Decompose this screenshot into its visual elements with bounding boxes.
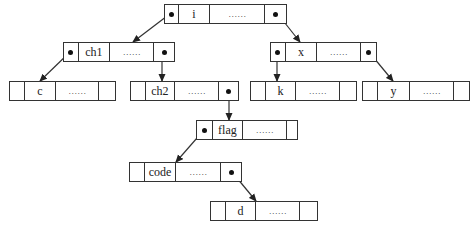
pointer-dot-icon xyxy=(202,128,207,133)
node-data-cell: …… xyxy=(110,43,154,61)
left-pointer-cell xyxy=(165,5,179,23)
node-key-label: c xyxy=(37,84,42,99)
node-key-label: flag xyxy=(218,123,237,138)
left-pointer-cell xyxy=(131,82,146,100)
node-key-label: d xyxy=(237,204,243,219)
node-key-cell: ch1 xyxy=(79,43,110,61)
node-key-cell: x xyxy=(286,43,317,61)
pointer-dot-icon xyxy=(273,12,278,17)
node-data-ellipsis: …… xyxy=(269,206,287,216)
node-key-label: code xyxy=(149,165,172,180)
right-pointer-cell xyxy=(300,202,317,220)
left-pointer-cell xyxy=(363,82,378,100)
tree-node-i: i…… xyxy=(164,4,287,24)
tree-node-code: code…… xyxy=(129,162,242,182)
right-pointer-cell xyxy=(219,82,238,100)
tree-node-flag: flag…… xyxy=(196,120,298,140)
left-pointer-cell xyxy=(271,43,286,61)
pointer-dot-icon xyxy=(162,50,167,55)
node-key-label: ch1 xyxy=(85,45,102,60)
node-data-cell: …… xyxy=(176,163,221,181)
node-key-label: k xyxy=(277,84,283,99)
tree-node-k: k…… xyxy=(250,81,357,101)
node-data-ellipsis: …… xyxy=(123,47,141,57)
node-data-ellipsis: …… xyxy=(423,86,441,96)
right-pointer-cell xyxy=(454,82,469,100)
node-key-label: y xyxy=(390,84,396,99)
node-data-ellipsis: …… xyxy=(68,86,86,96)
node-data-ellipsis: …… xyxy=(228,9,246,19)
left-pointer-cell xyxy=(10,82,25,100)
node-data-cell: …… xyxy=(175,82,219,100)
node-key-cell: ch2 xyxy=(146,82,175,100)
tree-node-ch2: ch2…… xyxy=(130,81,239,101)
right-pointer-cell xyxy=(221,163,241,181)
node-data-ellipsis: …… xyxy=(256,125,274,135)
node-key-cell: d xyxy=(226,202,256,220)
node-key-cell: y xyxy=(378,82,410,100)
node-data-cell: …… xyxy=(243,121,287,139)
right-pointer-cell xyxy=(154,43,174,61)
right-pointer-cell xyxy=(287,121,297,139)
pointer-dot-icon xyxy=(275,50,280,55)
node-data-cell: …… xyxy=(256,202,300,220)
right-pointer-cell xyxy=(99,82,115,100)
node-data-ellipsis: …… xyxy=(330,47,348,57)
left-pointer-cell xyxy=(130,163,145,181)
node-key-cell: i xyxy=(179,5,210,23)
tree-diagram: i……ch1……x……c……ch2……k……y……flag……code……d…… xyxy=(0,0,474,237)
pointer-dot-icon xyxy=(226,89,231,94)
node-data-cell: …… xyxy=(317,43,361,61)
tree-node-x: x…… xyxy=(270,42,377,62)
left-pointer-cell xyxy=(211,202,226,220)
node-data-ellipsis: …… xyxy=(189,167,207,177)
node-key-label: x xyxy=(298,45,304,60)
pointer-dot-icon xyxy=(229,170,234,175)
node-data-cell: …… xyxy=(210,5,265,23)
left-pointer-cell xyxy=(197,121,213,139)
node-key-label: i xyxy=(192,7,195,22)
tree-node-ch1: ch1…… xyxy=(63,42,175,62)
node-data-cell: …… xyxy=(410,82,454,100)
tree-node-c: c…… xyxy=(9,81,116,101)
node-data-ellipsis: …… xyxy=(188,86,206,96)
pointer-dot-icon xyxy=(169,12,174,17)
node-key-cell: k xyxy=(266,82,296,100)
right-pointer-cell xyxy=(265,5,286,23)
tree-node-d: d…… xyxy=(210,201,318,221)
node-key-label: ch2 xyxy=(151,84,168,99)
node-key-cell: code xyxy=(145,163,176,181)
left-pointer-cell xyxy=(64,43,79,61)
right-pointer-cell xyxy=(361,43,376,61)
node-data-ellipsis: …… xyxy=(309,86,327,96)
left-pointer-cell xyxy=(251,82,266,100)
tree-node-y: y…… xyxy=(362,81,470,101)
node-data-cell: …… xyxy=(296,82,340,100)
pointer-dot-icon xyxy=(366,50,371,55)
node-key-cell: c xyxy=(25,82,56,100)
right-pointer-cell xyxy=(340,82,356,100)
node-key-cell: flag xyxy=(213,121,243,139)
pointer-dot-icon xyxy=(68,50,73,55)
node-data-cell: …… xyxy=(56,82,99,100)
